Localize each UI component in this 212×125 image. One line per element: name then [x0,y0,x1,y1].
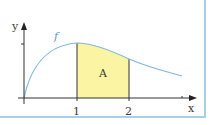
y-axis-arrow-icon [21,22,27,30]
function-label: f [53,30,60,43]
y-axis-label: y [11,20,19,33]
x-axis-label: x [188,102,195,115]
tick-label-1: 1 [73,105,80,118]
area-diagram: y f A 1 2 x [0,0,212,125]
area-label: A [98,67,108,80]
tick-label-2: 2 [125,105,132,118]
x-axis-arrow-icon [189,95,197,101]
